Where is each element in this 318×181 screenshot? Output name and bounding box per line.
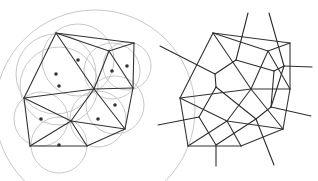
delaunay-edge bbox=[180, 98, 188, 146]
voronoi-ray bbox=[160, 46, 215, 74]
delaunay-edge bbox=[283, 89, 290, 129]
delaunay-edge bbox=[241, 129, 283, 146]
delaunay-edge bbox=[251, 51, 268, 89]
voronoi-edge bbox=[199, 117, 216, 145]
delaunay-edges-right bbox=[180, 33, 290, 146]
voronoi-ray bbox=[269, 13, 284, 66]
voronoi-edge bbox=[216, 119, 256, 145]
delaunay-voronoi-figure bbox=[0, 0, 318, 181]
circumcenter-dot bbox=[110, 69, 114, 73]
delaunay-edge bbox=[56, 33, 134, 43]
delaunay-edge bbox=[24, 98, 71, 121]
circumcenter-dot bbox=[113, 103, 117, 107]
delaunay-edge bbox=[94, 89, 125, 129]
delaunay-edge bbox=[227, 121, 283, 129]
delaunay-edge bbox=[24, 98, 30, 146]
voronoi-edge bbox=[215, 60, 236, 74]
delaunay-edge bbox=[213, 33, 290, 43]
circumcenter-dot bbox=[57, 143, 61, 147]
circumcenter-dot bbox=[57, 84, 61, 88]
delaunay-edge bbox=[56, 33, 109, 51]
voronoi-ray bbox=[271, 107, 311, 116]
diagram-canvas bbox=[0, 0, 318, 181]
voronoi-edge bbox=[199, 87, 216, 117]
circumcircles-layer bbox=[0, 10, 195, 181]
circumcenter-dot bbox=[125, 64, 129, 68]
delaunay-edges-left bbox=[24, 33, 134, 146]
delaunay-edge bbox=[30, 121, 71, 146]
voronoi-edge bbox=[215, 74, 216, 87]
voronoi-edge bbox=[236, 60, 274, 71]
voronoi-ray bbox=[158, 117, 199, 125]
delaunay-edge bbox=[180, 89, 251, 98]
delaunay-edge bbox=[125, 88, 133, 129]
voronoi-edge bbox=[216, 87, 256, 119]
circumcenter-dot bbox=[96, 117, 100, 121]
voronoi-ray bbox=[284, 66, 312, 67]
delaunay-edge bbox=[71, 89, 94, 121]
delaunay-edge bbox=[213, 33, 251, 89]
circumcenter-dot bbox=[76, 58, 80, 62]
circumcenter-dot bbox=[39, 117, 43, 121]
delaunay-edge bbox=[133, 43, 134, 88]
delaunay-edge bbox=[24, 33, 56, 98]
circumcenter-dot bbox=[54, 72, 58, 76]
voronoi-edge bbox=[256, 107, 271, 119]
